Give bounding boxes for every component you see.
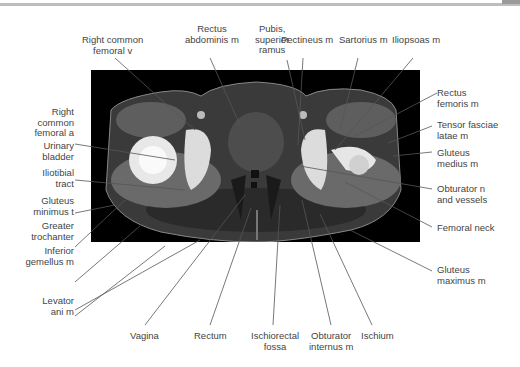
top-tab xyxy=(502,0,520,4)
label-sartorius-m: Sartorius m xyxy=(339,35,388,46)
ct-scan-image xyxy=(91,70,420,242)
label-rectus-abdominis-m: Rectus abdominis m xyxy=(185,24,239,45)
label-vagina: Vagina xyxy=(130,331,159,342)
label-ischiorectal-fossa: Ischiorectal fossa xyxy=(251,331,299,352)
label-iliotibial-tract: Iliotibial tract xyxy=(42,168,74,189)
label-ischium: Ischium xyxy=(361,331,394,342)
label-obturator-n-vessels: Obturator n and vessels xyxy=(437,184,487,205)
label-rectus-femoris-m: Rectus femoris m xyxy=(437,88,479,109)
label-greater-trochanter: Greater trochanter xyxy=(31,221,74,242)
label-right-common-femoral-v: Right common femoral v xyxy=(82,35,143,56)
top-border xyxy=(0,3,520,6)
label-urinary-bladder: Urinary bladder xyxy=(42,141,74,162)
label-right-common-femoral-a: Right common femoral a xyxy=(34,107,74,139)
label-gluteus-medius-m: Gluteus medius m xyxy=(437,148,478,169)
label-tensor-fasciae-latae-m: Tensor fasciae latae m xyxy=(437,120,498,141)
label-gluteus-minimus: Gluteus minimus t xyxy=(33,196,74,217)
label-rectum: Rectum xyxy=(194,331,227,342)
label-obturator-internus-m: Obturator internus m xyxy=(309,331,353,352)
label-femoral-neck: Femoral neck xyxy=(437,223,495,234)
label-gluteus-maximus-m: Gluteus maximus m xyxy=(437,265,486,286)
label-iliopsoas-m: Iliopsoas m xyxy=(392,35,440,46)
label-inferior-gemellus-m: Inferior gemellus m xyxy=(25,246,74,267)
label-levator-ani-m: Levator ani m xyxy=(42,296,74,317)
label-pectineus-m: Pectineus m xyxy=(281,35,333,46)
